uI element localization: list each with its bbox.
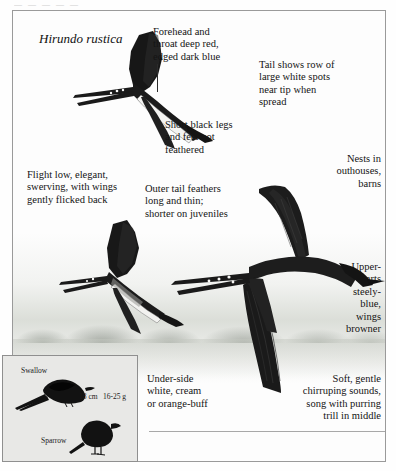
annotation-line: wings (319, 311, 381, 323)
sparrow-label: Sparrow (41, 436, 66, 445)
annotation-line: large white spots (259, 71, 379, 83)
annotation-line: Under-side (147, 373, 257, 385)
annotation-line: near tip when (259, 84, 379, 96)
annotation-line: swerving, with wings (27, 181, 157, 193)
annotation-line: Forehead and (153, 26, 263, 38)
size-comparison-box: Swallow Sparrow 18 cm 16-25 g (2, 355, 138, 462)
annotation-line: spread (259, 96, 379, 108)
annotation-line: Short black legs (165, 119, 280, 131)
annotation-line: browner (319, 323, 381, 335)
field-guide-plate: — — — — — Hirundo rustica (0, 0, 396, 471)
annotation-underside: Under-side white, cream or orange-buff (147, 373, 257, 410)
annotation-line: or orange-buff (147, 398, 257, 410)
annotation-line: long and thin; (145, 195, 265, 207)
annotation-line: Outer tail feathers (145, 183, 265, 195)
annotation-line: trill in middle (257, 410, 381, 422)
annotation-legs: Short black legs and feet not feathered (165, 119, 280, 156)
annotation-line: edged dark blue (153, 51, 263, 63)
annotation-line: and feet not (165, 131, 280, 143)
annotation-line: gently flicked back (27, 194, 157, 206)
annotation-line: Soft, gentle (257, 373, 381, 385)
annotation-line: barns (301, 178, 381, 190)
size-length: 18 cm (79, 392, 98, 401)
annotation-line: song with purring (257, 398, 381, 410)
annotation-line: Nests in (301, 153, 381, 165)
annotation-line: Upper- (319, 261, 381, 273)
annotation-line: white, cream (147, 385, 257, 397)
size-weight: 16-25 g (103, 392, 126, 401)
sparrow-silhouette (65, 414, 123, 458)
annotation-outer-tail: Outer tail feathers long and thin; short… (145, 183, 265, 220)
annotation-nests: Nests in outhouses, barns (301, 153, 381, 190)
annotation-line: throat deep red, (153, 38, 263, 50)
annotation-line: Tail shows row of (259, 59, 379, 71)
annotation-forehead: Forehead and throat deep red, edged dark… (153, 26, 263, 63)
baseline-divider (149, 431, 386, 432)
annotation-line: blue, (319, 298, 381, 310)
annotation-line: outhouses, (301, 165, 381, 177)
annotation-voice: Soft, gentle chirruping sounds, song wit… (257, 373, 381, 423)
annotation-upperparts: Upper- parts steely- blue, wings browner (319, 261, 381, 335)
annotation-tail-spots: Tail shows row of large white spots near… (259, 59, 379, 109)
scan-top-artifact: — — — — — (14, 0, 164, 9)
leader-line-forehead (157, 64, 158, 92)
annotation-line: Flight low, elegant, (27, 169, 157, 181)
annotation-line: parts (319, 273, 381, 285)
annotation-line: chirruping sounds, (257, 385, 381, 397)
annotation-line: feathered (165, 144, 280, 156)
annotation-flight: Flight low, elegant, swerving, with wing… (27, 169, 157, 206)
annotation-line: shorter on juveniles (145, 208, 265, 220)
annotation-line: steely- (319, 286, 381, 298)
